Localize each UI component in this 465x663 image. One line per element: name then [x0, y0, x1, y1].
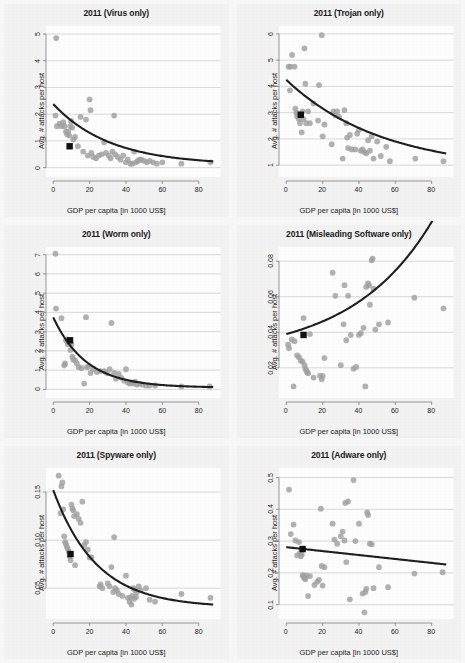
- data-point: [123, 366, 129, 372]
- data-point: [83, 117, 89, 123]
- data-point: [305, 593, 311, 599]
- x-tick-label: 20: [318, 628, 326, 635]
- x-tick-label: 80: [195, 628, 203, 635]
- data-point: [319, 583, 325, 589]
- data-point: [411, 571, 417, 577]
- figure-grid: 2011 (Virus only)Avg. # attacks per host…: [0, 0, 465, 663]
- y-tick-label: 5: [266, 58, 273, 62]
- data-point: [107, 583, 113, 589]
- data-point: [319, 373, 325, 379]
- data-point: [350, 477, 356, 483]
- data-point: [79, 499, 85, 505]
- data-point: [99, 585, 105, 591]
- data-point: [154, 161, 160, 167]
- data-point: [307, 573, 313, 579]
- y-tick-label: 1: [34, 139, 41, 143]
- data-point: [119, 593, 125, 599]
- data-point: [318, 32, 324, 38]
- data-point: [291, 64, 297, 70]
- data-point: [123, 573, 129, 579]
- data-point: [310, 375, 316, 381]
- data-point: [147, 597, 153, 603]
- x-tick-label: 20: [318, 186, 326, 193]
- data-point: [286, 345, 292, 351]
- y-tick-label: 0.3: [266, 536, 273, 546]
- x-tick-label: 40: [122, 628, 130, 635]
- y-tick-label: 3: [34, 330, 41, 334]
- data-point: [298, 129, 304, 135]
- x-tick-label: 60: [158, 407, 166, 414]
- data-point: [307, 120, 313, 126]
- data-point: [72, 134, 78, 140]
- data-point: [305, 108, 311, 114]
- y-tick-label: 5: [34, 291, 41, 295]
- data-point: [328, 141, 334, 147]
- data-point: [108, 155, 114, 161]
- data-point: [334, 541, 340, 547]
- data-point: [317, 506, 323, 512]
- data-point: [133, 594, 139, 600]
- data-point: [346, 132, 352, 138]
- data-point: [107, 366, 113, 372]
- y-tick-label: 6: [266, 32, 273, 36]
- data-point: [321, 122, 327, 128]
- data-point: [79, 365, 85, 371]
- data-point: [291, 338, 297, 344]
- data-point: [72, 562, 78, 568]
- data-point: [315, 118, 321, 124]
- data-point: [374, 139, 380, 145]
- data-point: [81, 381, 87, 387]
- data-point: [376, 564, 382, 570]
- data-point: [159, 159, 165, 165]
- data-point: [59, 315, 65, 321]
- data-point: [307, 331, 313, 337]
- x-tick-label: 20: [86, 628, 94, 635]
- y-tick-label: 1: [266, 163, 273, 167]
- x-tick-label: 80: [427, 186, 435, 193]
- data-point: [385, 320, 391, 326]
- data-point: [368, 541, 374, 547]
- highlight-marker: [67, 337, 73, 343]
- data-point: [316, 82, 322, 88]
- highlight-marker: [67, 551, 73, 557]
- data-point: [87, 97, 93, 103]
- data-point: [346, 596, 352, 602]
- plot-area: [46, 247, 221, 398]
- x-tick-label: 0: [284, 628, 288, 635]
- data-point: [53, 251, 59, 257]
- data-point: [363, 586, 369, 592]
- data-point: [386, 158, 392, 164]
- data-point: [305, 370, 311, 376]
- data-point: [302, 81, 308, 87]
- plot-area: [279, 468, 454, 619]
- y-tick-label: 0.04: [266, 325, 273, 339]
- highlight-marker: [300, 332, 306, 338]
- data-point: [361, 609, 367, 615]
- data-point: [365, 512, 371, 518]
- data-point: [301, 45, 307, 51]
- data-point: [321, 564, 327, 570]
- data-point: [83, 539, 89, 545]
- x-tick-label: 60: [158, 186, 166, 193]
- x-tick-label: 20: [318, 407, 326, 414]
- data-point: [341, 538, 347, 544]
- data-point: [376, 321, 382, 327]
- x-tick-label: 40: [355, 407, 363, 414]
- data-point: [321, 355, 327, 361]
- data-point: [352, 147, 358, 153]
- x-tick-label: 80: [195, 186, 203, 193]
- y-tick-label: 6: [34, 272, 41, 276]
- chart-panel: 2011 (Trojan only)Avg. # attacks per hos…: [233, 0, 465, 221]
- y-tick-label: 0.4: [266, 504, 273, 514]
- data-point: [61, 533, 67, 539]
- data-point: [78, 114, 84, 120]
- data-point: [345, 293, 351, 299]
- highlight-marker: [299, 546, 305, 552]
- highlight-marker: [66, 143, 72, 149]
- data-point: [319, 133, 325, 139]
- data-point: [366, 282, 372, 288]
- data-point: [366, 302, 372, 308]
- data-point: [383, 144, 389, 150]
- data-point: [289, 52, 295, 58]
- data-point: [372, 327, 378, 333]
